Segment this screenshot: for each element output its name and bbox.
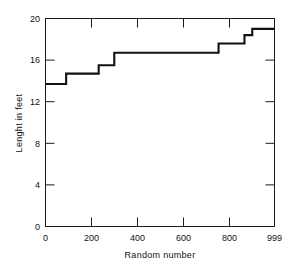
y-axis-ticks-right (266, 60, 275, 226)
y-tick-labels: 0 4 8 12 16 20 (30, 14, 40, 232)
y-tick-label-12: 12 (30, 97, 40, 107)
x-axis-ticks-top (92, 19, 230, 28)
y-tick-label-0: 0 (35, 222, 40, 232)
x-axis-title: Random number (125, 250, 196, 260)
x-tick-label-400: 400 (130, 233, 145, 243)
y-axis-title: Lenght in feet (14, 93, 24, 152)
y-tick-label-16: 16 (30, 55, 40, 65)
y-tick-label-20: 20 (30, 14, 40, 24)
x-tick-labels: 0 200 400 600 800 999 (43, 233, 282, 243)
x-tick-label-200: 200 (84, 233, 99, 243)
x-tick-label-800: 800 (222, 233, 237, 243)
step-curve-line (46, 29, 275, 84)
chart-page: 0 4 8 12 16 20 0 200 400 600 800 999 Ran… (0, 0, 299, 276)
y-tick-label-8: 8 (35, 139, 40, 149)
x-tick-label-600: 600 (176, 233, 191, 243)
x-tick-label-999: 999 (267, 233, 282, 243)
step-chart: 0 4 8 12 16 20 0 200 400 600 800 999 Ran… (0, 0, 299, 276)
y-tick-label-4: 4 (35, 180, 40, 190)
x-axis-ticks (46, 218, 230, 227)
x-tick-label-0: 0 (43, 233, 48, 243)
plot-frame (46, 19, 275, 227)
